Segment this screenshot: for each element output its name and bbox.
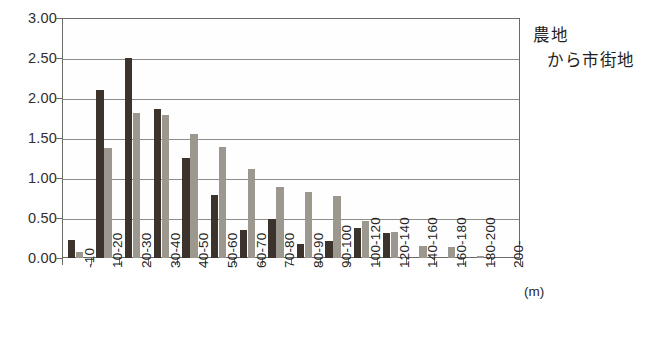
x-axis-tick-label: 20-30 [139, 232, 154, 268]
y-axis-tick [56, 218, 62, 219]
chart-annotation: 農地 から市街地 [533, 24, 657, 74]
bar-group [205, 18, 234, 258]
y-axis-tick-label: 0.50 [5, 210, 57, 226]
y-axis-tick [56, 138, 62, 139]
bar [325, 241, 332, 258]
bar-group [148, 18, 177, 258]
bar-group [320, 18, 349, 258]
x-axis-tick-label: 50-60 [225, 232, 240, 268]
bar [268, 219, 275, 258]
bar-group [291, 18, 320, 258]
bar-group [234, 18, 263, 258]
bar [96, 90, 103, 258]
x-axis-tick-label: 90-100 [339, 225, 354, 268]
y-axis-tick-label: 2.00 [5, 90, 57, 106]
y-axis-tick [56, 178, 62, 179]
bar [354, 228, 361, 258]
bar-chart: 0.000.501.001.502.002.503.00 -1010-2020-… [0, 0, 657, 343]
x-axis-tick-label: 80-90 [311, 232, 326, 268]
x-axis-tick-label: 30-40 [168, 232, 183, 268]
y-axis-tick-label: 2.50 [5, 50, 57, 66]
x-axis-tick-label: 60-70 [254, 232, 269, 268]
bar [68, 240, 75, 258]
bar [182, 158, 189, 258]
bar-group [91, 18, 120, 258]
annotation-line-2: から市街地 [533, 49, 657, 74]
bar [154, 109, 161, 258]
bar [240, 230, 247, 258]
bar [125, 58, 132, 258]
x-axis-tick-label: 120-140 [397, 217, 412, 268]
y-axis-tick [56, 18, 62, 19]
bar [211, 195, 218, 258]
annotation-line-1: 農地 [533, 24, 657, 49]
y-axis-tick-label: 1.50 [5, 130, 57, 146]
bar-group [62, 18, 91, 258]
x-axis-tick-label: 140-160 [425, 217, 440, 268]
x-axis-tick-label: 10-20 [110, 232, 125, 268]
bar [297, 244, 304, 258]
x-axis-unit-label: (m) [524, 284, 544, 299]
y-axis-tick-label: 0.00 [5, 250, 57, 266]
bar-group [119, 18, 148, 258]
y-axis-tick-label: 1.00 [5, 170, 57, 186]
bars-layer [62, 18, 520, 258]
x-axis-tick [62, 258, 63, 265]
y-axis-tick-label: 3.00 [5, 10, 57, 26]
x-axis-tick-label: 70-80 [282, 232, 297, 268]
x-axis-tick-label: -10 [82, 248, 97, 268]
bar-group [262, 18, 291, 258]
y-axis-labels: 0.000.501.001.502.002.503.00 [0, 18, 57, 258]
bar [383, 233, 390, 258]
y-axis-tick [56, 98, 62, 99]
y-axis-tick [56, 258, 62, 259]
x-axis-tick-label: 40-50 [196, 232, 211, 268]
x-axis-tick-label: 100-120 [368, 217, 383, 268]
y-axis-tick [56, 58, 62, 59]
x-axis-tick-label: 160-180 [454, 217, 469, 268]
x-axis-tick-label: 200- [511, 240, 526, 268]
x-axis-tick-label: 180-200 [483, 217, 498, 268]
bar-group [177, 18, 206, 258]
